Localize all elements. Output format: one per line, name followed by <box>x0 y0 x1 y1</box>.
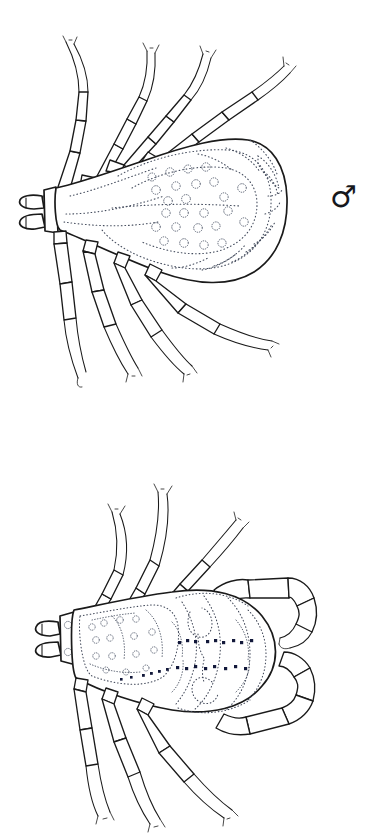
male-capitulum <box>20 187 58 233</box>
mars-symbol-glyph: ♂ <box>330 179 357 214</box>
female-leg-7 <box>102 688 165 832</box>
illustration-plate: .ln { fill:none; stroke:#1a1a1a; stroke-… <box>0 0 376 839</box>
female-body <box>72 590 276 712</box>
figure-panel-male: .ln { fill:none; stroke:#1a1a1a; stroke-… <box>0 0 376 420</box>
mars-symbol: ♂ <box>330 182 357 212</box>
female-capitulum <box>36 612 76 665</box>
male-leg-5 <box>54 231 86 387</box>
figure-panel-female: .fln { fill:none; stroke:#1a1a1a; stroke… <box>0 420 376 839</box>
male-tick-drawing: .ln { fill:none; stroke:#1a1a1a; stroke-… <box>0 0 376 420</box>
female-tick-drawing: .fln { fill:none; stroke:#1a1a1a; stroke… <box>0 420 376 839</box>
